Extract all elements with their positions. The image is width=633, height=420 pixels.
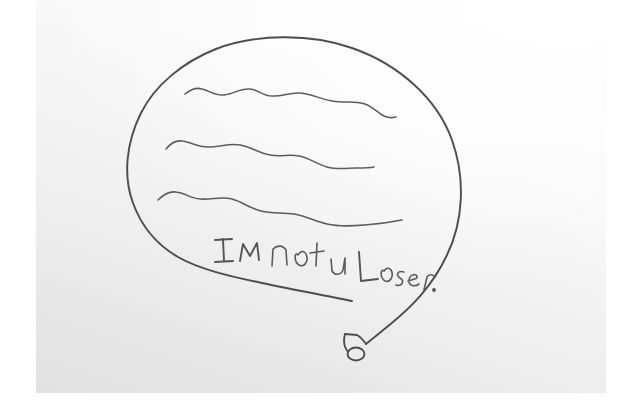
letter-u: [331, 258, 345, 274]
letter-s: [396, 272, 404, 286]
letter-e: [408, 275, 419, 286]
speech-bubble-outline: [127, 37, 461, 344]
scribble-line-2: [166, 141, 374, 169]
speech-bubble-tail: [344, 334, 366, 361]
letter-o-2: [381, 268, 392, 281]
letter-L: [359, 252, 378, 281]
period-mark: [432, 288, 436, 292]
scribble-lines: [158, 88, 402, 226]
letter-t: [310, 243, 324, 266]
handwritten-caption: [215, 239, 436, 292]
letter-I: [215, 239, 233, 262]
tail-end-circle: [348, 348, 365, 361]
image-canvas: I M not u Loser. speech-bubble Hand-draw…: [0, 0, 633, 420]
pencil-drawing: [0, 0, 633, 420]
letter-o: [295, 251, 307, 265]
letter-M: [240, 243, 259, 261]
letter-n: [272, 246, 287, 266]
letter-r: [424, 275, 435, 290]
scribble-line-1: [185, 88, 396, 117]
scribble-line-3: [158, 192, 402, 226]
